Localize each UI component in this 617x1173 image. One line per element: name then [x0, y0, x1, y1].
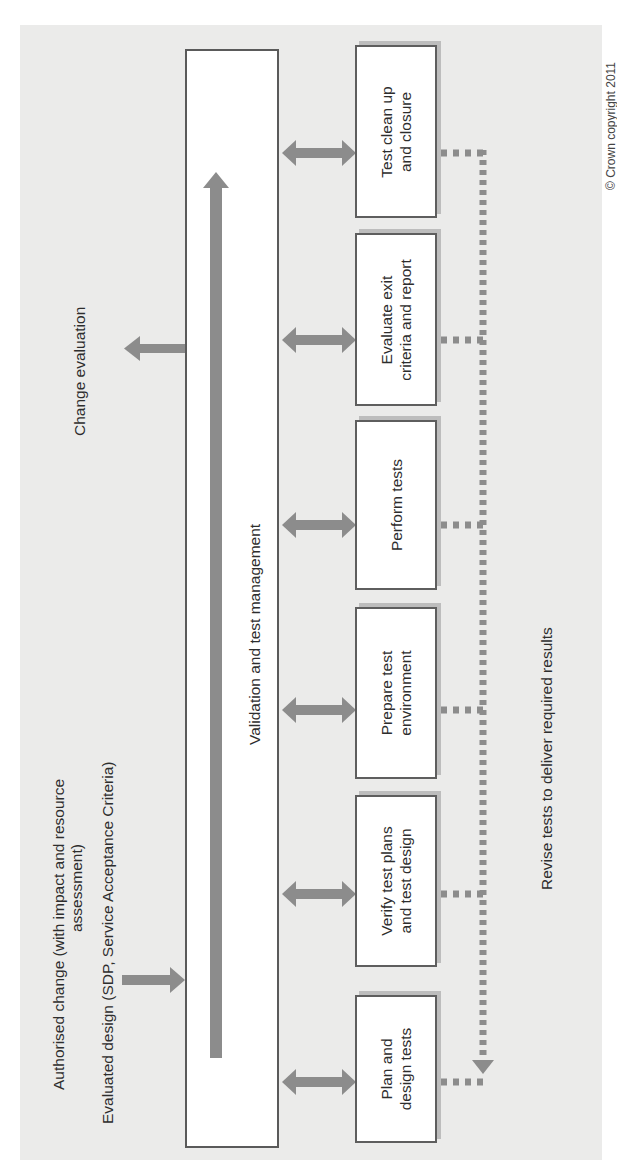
double-arrow-icon — [282, 512, 356, 538]
change-evaluation-arrow-icon — [124, 336, 185, 361]
step-double-arrows — [282, 140, 356, 1095]
step-label-line1: Evaluate exit — [377, 259, 396, 380]
change-evaluation-label: Change evaluation — [71, 307, 89, 436]
step-prepare-test-environment: Prepare test environment — [355, 607, 437, 779]
feedback-dotted-lines — [441, 150, 487, 1082]
validation-test-management-label: Validation and test management — [246, 524, 264, 745]
step-label-line1: Plan and — [377, 1028, 396, 1111]
double-arrow-icon — [282, 327, 356, 353]
step-perform-tests: Perform tests — [355, 420, 437, 590]
authorised-change-label: Authorised change (with impact and resou… — [50, 779, 68, 1090]
diagram-arrows — [0, 0, 617, 1173]
step-label-line1: Test clean up — [377, 86, 396, 177]
evaluated-design-label: Evaluated design (SDP, Service Acceptanc… — [99, 762, 117, 1124]
step-label-line2: design tests — [396, 1028, 415, 1111]
step-label-line2: criteria and report — [396, 259, 415, 380]
step-plan-design-tests: Plan and design tests — [355, 995, 437, 1143]
step-test-cleanup-closure: Test clean up and closure — [355, 45, 437, 218]
step-label-line2: and test design — [396, 826, 415, 935]
feedback-arrowhead-icon — [472, 1060, 494, 1074]
step-label-line2: environment — [396, 650, 415, 735]
step-evaluate-exit-criteria: Evaluate exit criteria and report — [355, 233, 437, 406]
evaluated-design-arrow-icon — [122, 967, 185, 993]
double-arrow-icon — [282, 1069, 356, 1095]
step-label-line1: Prepare test — [377, 650, 396, 735]
progress-up-arrow-icon — [203, 172, 229, 1058]
step-label-line1: Perform tests — [387, 459, 406, 551]
double-arrow-icon — [282, 881, 356, 907]
double-arrow-icon — [282, 140, 356, 166]
step-label-line2: and closure — [396, 86, 415, 177]
feedback-label: Revise tests to deliver required results — [538, 627, 556, 890]
double-arrow-icon — [282, 697, 356, 723]
step-label-line1: Verify test plans — [377, 826, 396, 935]
diagram-canvas: Plan and design tests Verify test plans … — [0, 0, 617, 1173]
copyright-strip: © Crown copyright 2011 — [604, 30, 617, 190]
authorised-change-label-cont: assessment) — [68, 844, 86, 932]
copyright-text: © Crown copyright 2011 — [604, 62, 617, 190]
step-verify-test-plans: Verify test plans and test design — [355, 795, 437, 967]
